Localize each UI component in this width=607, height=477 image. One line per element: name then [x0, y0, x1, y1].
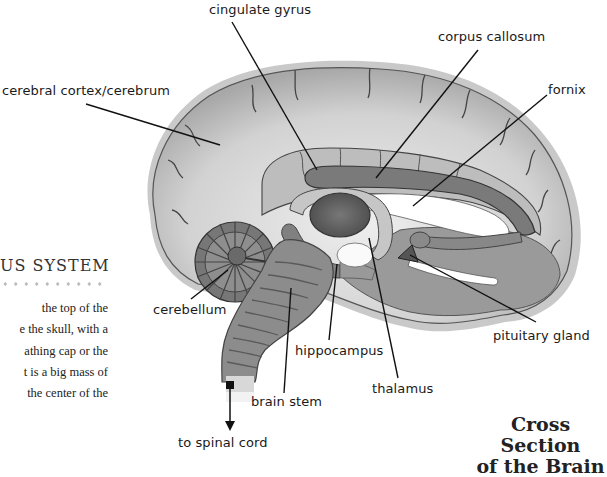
label-cerebral-cortex: cerebral cortex/cerebrum [2, 83, 170, 98]
title-line-1: Cross Section [474, 414, 607, 456]
label-cingulate-gyrus: cingulate gyrus [209, 2, 311, 17]
title-line-2: of the Brain [474, 456, 607, 477]
label-brain-stem: brain stem [251, 394, 322, 409]
label-fornix: fornix [548, 82, 586, 97]
arrow-down-icon [225, 381, 235, 431]
label-cerebellum: cerebellum [153, 302, 227, 317]
label-thalamus: thalamus [372, 381, 433, 396]
label-pituitary-gland: pituitary gland [493, 328, 590, 343]
label-corpus-callosum: corpus callosum [438, 29, 545, 44]
diagram-title: Cross Section of the Brain [474, 414, 607, 477]
label-hippocampus: hippocampus [295, 343, 383, 358]
thalamus-shape [310, 193, 370, 237]
label-to-spinal-cord: to spinal cord [178, 435, 268, 450]
